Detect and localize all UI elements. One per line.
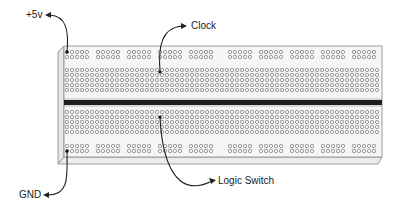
label-gnd: GND	[19, 189, 41, 201]
label-logic-switch: Logic Switch	[218, 175, 274, 187]
breadboard-diagram	[0, 0, 417, 214]
label-plus5v: +5v	[26, 9, 42, 21]
center-divider	[64, 100, 382, 105]
board-bevel-bottom	[58, 157, 382, 164]
board-bevel-left	[58, 46, 64, 164]
label-clock: Clock	[191, 20, 216, 32]
